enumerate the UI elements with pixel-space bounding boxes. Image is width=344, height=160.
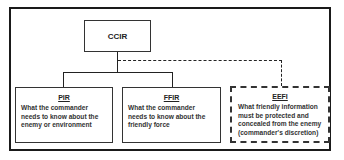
ffir-node: FFIR What the commander needs to know ab… <box>122 87 221 143</box>
ffir-title: FFIR <box>128 94 215 101</box>
connector-root-down <box>117 52 118 73</box>
ccir-label: CCIR <box>108 32 128 41</box>
dashed-connector-horizontal <box>118 60 282 61</box>
connector-pir <box>63 72 64 87</box>
eefi-title: EEFI <box>238 93 322 100</box>
pir-description: What the commander needs to know about t… <box>21 104 107 130</box>
ccir-node: CCIR <box>84 20 151 52</box>
connector-horizontal <box>63 72 173 73</box>
dashed-connector-eefi <box>281 60 282 86</box>
ffir-description: What the commander needs to know about t… <box>128 104 215 130</box>
eefi-node: EEFI What friendly information must be p… <box>230 86 330 143</box>
connector-ffir <box>172 72 173 87</box>
pir-title: PIR <box>21 94 107 101</box>
pir-node: PIR What the commander needs to know abo… <box>15 87 113 143</box>
eefi-description: What friendly information must be protec… <box>238 103 322 137</box>
